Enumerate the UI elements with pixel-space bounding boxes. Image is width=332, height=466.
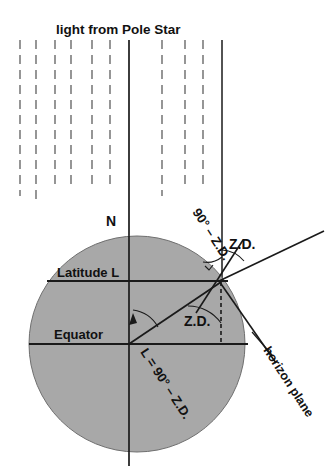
pole-star-latitude-diagram: light from Pole Star N Latitude L Equato… (0, 0, 332, 466)
pole-star-ray-group (20, 40, 203, 200)
zenith-distance-lower-label: Z.D. (184, 313, 210, 329)
equator-label: Equator (54, 327, 103, 342)
north-pole-label: N (106, 213, 116, 229)
diagram-canvas: light from Pole Star N Latitude L Equato… (0, 0, 332, 466)
latitude-label: Latitude L (57, 265, 119, 280)
zenith-distance-upper-label: Z.D. (229, 236, 255, 252)
horizon-plane-label: horizon plane (260, 344, 316, 420)
pole-star-light-label: light from Pole Star (56, 22, 181, 37)
